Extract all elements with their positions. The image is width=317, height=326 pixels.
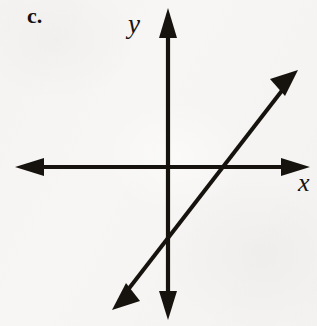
coordinate-plane-graphic xyxy=(0,0,317,326)
y-axis-label: y xyxy=(128,11,140,38)
y-axis xyxy=(159,8,177,320)
x-axis xyxy=(15,158,310,176)
graph-figure: c. y x xyxy=(0,0,317,326)
plotted-line-lower-left-arrowhead xyxy=(112,283,140,310)
y-axis-top-arrowhead xyxy=(159,8,177,38)
part-label: c. xyxy=(27,5,42,27)
x-axis-label: x xyxy=(298,170,310,196)
plotted-line-shaft xyxy=(127,88,284,291)
plotted-line xyxy=(112,70,298,310)
plotted-line-upper-right-arrowhead xyxy=(270,70,298,96)
x-axis-left-arrowhead xyxy=(15,158,44,176)
y-axis-bottom-arrowhead xyxy=(159,291,177,320)
